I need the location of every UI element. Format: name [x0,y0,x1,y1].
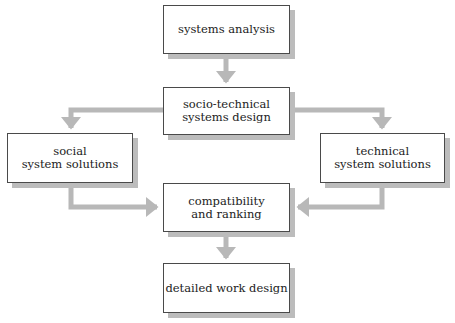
node-technical-solutions: technical system solutions [320,133,445,183]
node-label: technical system solutions [334,145,431,171]
arrow-technical-to-compat [298,187,382,207]
node-systems-analysis: systems analysis [163,5,290,54]
node-detailed-work-design: detailed work design [163,263,290,313]
arrow-social-to-compat [71,187,157,207]
node-label: social system solutions [22,145,119,171]
arrow-design-to-technical [294,110,382,128]
node-compatibility-ranking: compatibility and ranking [163,183,290,232]
node-socio-technical-design: socio-technical systems design [163,87,290,135]
node-social-solutions: social system solutions [7,133,133,183]
node-label: compatibility and ranking [188,195,264,221]
node-label: systems analysis [178,23,275,36]
node-label: detailed work design [165,282,287,295]
arrow-design-to-social [71,110,163,128]
node-label: socio-technical systems design [182,98,271,124]
